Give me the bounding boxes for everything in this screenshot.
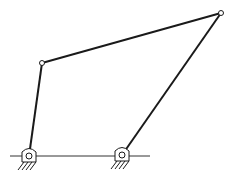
top-right-joint xyxy=(219,11,224,16)
input-crank xyxy=(29,63,42,156)
right-ground-pivot xyxy=(111,148,129,170)
coupler-link xyxy=(42,13,221,63)
ground-hatch-icon xyxy=(18,162,36,170)
output-rocker xyxy=(122,13,221,155)
ground-hatch-icon xyxy=(111,161,129,169)
four-bar-linkage-diagram xyxy=(0,0,227,183)
left-ground-pivot xyxy=(18,149,36,171)
top-left-joint xyxy=(40,61,45,66)
